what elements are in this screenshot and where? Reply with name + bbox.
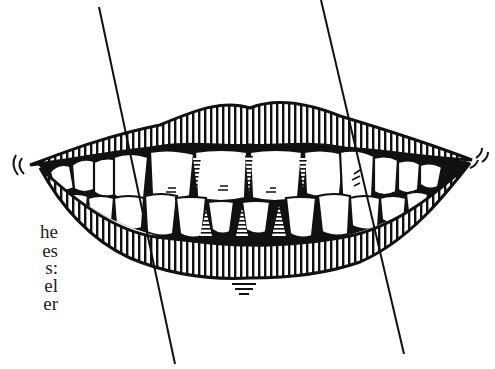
chin-marks (232, 284, 256, 294)
mouth-illustration (0, 0, 495, 369)
document-page: he es s: el er (0, 0, 495, 369)
